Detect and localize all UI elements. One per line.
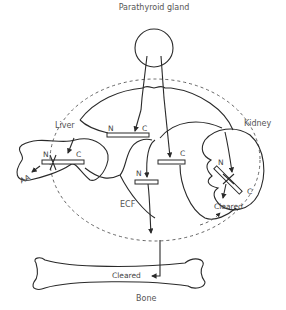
kidney-label: Kidney — [244, 119, 272, 128]
ecf-label: ECF — [120, 200, 136, 209]
c-fragment-molecule — [158, 160, 185, 164]
amino-acids-label: AA — [18, 172, 32, 185]
center-top-c-terminal: C — [142, 124, 147, 133]
c-fragment-to-kidney-path — [180, 165, 236, 219]
liver-output-path — [85, 139, 152, 178]
n-fragment-to-bone-arrow — [148, 184, 151, 233]
parathyroid-gland-circle — [135, 29, 173, 67]
center-top-pth-molecule — [107, 133, 149, 137]
n-fragment-n-terminal: N — [136, 169, 142, 178]
n-fragment-molecule — [135, 180, 158, 184]
secretion-arrow-to-top-bar — [135, 110, 141, 131]
path-to-kidney — [160, 122, 222, 138]
pth-metabolism-diagram: Parathyroid gland Liver N C AA N C C N E… — [0, 0, 286, 310]
liver-aa-arrow — [32, 166, 40, 172]
liver-c-terminal: C — [76, 150, 81, 159]
kidney-cleared-label: Cleared — [214, 202, 243, 211]
bone-label: Bone — [136, 294, 156, 303]
liver-label: Liver — [55, 121, 75, 130]
liver-uptake-arrow — [68, 138, 74, 153]
liver-pth-molecule — [42, 160, 84, 164]
arrow-to-n-fragment — [147, 140, 155, 177]
bone-cleared-label: Cleared — [112, 271, 141, 280]
kidney-c-terminal: C — [247, 187, 252, 196]
kidney-clearance-arrow — [223, 184, 226, 198]
liver-inflow-path — [80, 120, 108, 133]
c-fragment-c-terminal: C — [180, 149, 185, 158]
kidney-n-terminal: N — [218, 158, 224, 167]
center-top-n-terminal: N — [108, 124, 114, 133]
liver-n-terminal: N — [43, 150, 49, 159]
title-parathyroid-gland: Parathyroid gland — [119, 3, 190, 12]
secretion-line-right — [161, 56, 164, 98]
bone-clearance-arrow — [152, 240, 160, 276]
kidney-shape — [202, 129, 264, 210]
kidney-uptake-arrow — [225, 132, 232, 172]
circulation-notch — [143, 86, 171, 88]
secretion-arrow-to-c-fragment — [164, 98, 170, 157]
